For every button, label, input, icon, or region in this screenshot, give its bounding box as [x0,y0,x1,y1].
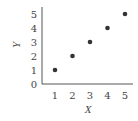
y-axis-label: Y [10,40,22,48]
x-tick-label: 1 [52,90,58,101]
y-tick-label: 0 [31,79,37,90]
scatter-chart: 012345 12345 X Y [0,0,138,121]
x-tick-label: 2 [69,90,75,101]
x-tick-label: 3 [87,90,93,101]
y-tick-label: 2 [31,51,37,62]
x-axis-label: X [84,103,93,115]
y-tick-labels: 012345 [31,9,37,90]
y-tick-label: 4 [31,23,37,34]
axes [42,7,133,84]
data-point [105,26,110,31]
data-point [70,54,75,59]
data-points [53,12,128,73]
x-tick-labels: 12345 [52,90,128,101]
data-point [88,40,93,45]
y-tick-label: 3 [31,37,37,48]
x-tick-label: 5 [122,90,128,101]
data-point [123,12,128,17]
data-point [53,68,58,73]
y-tick-label: 5 [31,9,37,20]
y-tick-label: 1 [31,65,37,76]
x-tick-label: 4 [104,90,110,101]
